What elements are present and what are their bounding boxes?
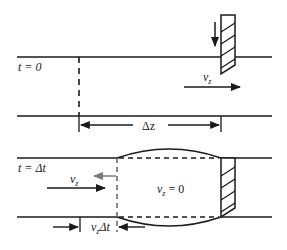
- stagnant-velocity-label: vz = 0: [157, 182, 184, 198]
- expanded-pipe-bottom: [117, 217, 221, 226]
- time-label-t0: t = 0: [18, 60, 41, 74]
- distance-label: vzΔt: [91, 220, 110, 236]
- expanded-pipe-top: [117, 149, 221, 158]
- inflow-velocity-label: vz: [70, 172, 79, 188]
- delta-z-label: Δz: [142, 119, 155, 133]
- closed-valve-icon: [221, 158, 235, 217]
- bottom-panel: t = Δt vz vz = 0 vzΔt: [17, 149, 272, 236]
- top-panel: t = 0 vz Δz: [17, 15, 272, 133]
- water-hammer-diagram: t = 0 vz Δz: [0, 0, 287, 250]
- time-label-dt: t = Δt: [18, 161, 46, 175]
- velocity-label: vz: [203, 70, 212, 86]
- valve-icon: [221, 15, 235, 74]
